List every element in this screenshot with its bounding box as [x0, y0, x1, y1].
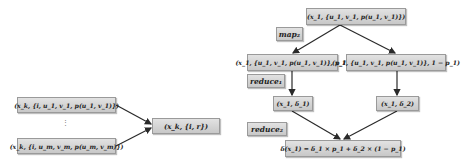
- delta2-node: (x_1, δ_2): [376, 96, 419, 111]
- branch-node-right: (x_1, {u_1, v_1, p(u_1, v_1)}, 1 − p_1): [346, 54, 446, 71]
- input-node-bottom: (x_k, {i, u_m, v_m, p(u_m, v_m)}): [17, 138, 116, 154]
- ellipsis-marker: ⋮: [62, 119, 69, 127]
- result-node: δ(x_1) = δ_1 × p_1 + δ_2 × (1 − p_1): [285, 140, 401, 157]
- arrow-delta1-to-result: [292, 111, 340, 139]
- output-node: (x_k, {i, r}): [152, 118, 220, 134]
- arrow-delta2-to-result: [344, 111, 397, 139]
- reduce1-stage-label: reduce₁: [247, 74, 285, 88]
- arrow-root-to-right: [340, 25, 395, 53]
- delta1-node: (x_1, δ_1): [273, 96, 313, 111]
- branch-node-left: (x_1, {u_1, v_1, p(u_1, v_1)}, p_1): [247, 54, 338, 71]
- arrow-top-to-output: [116, 105, 151, 124]
- map-stage-label: map₂: [276, 27, 303, 41]
- root-node: (x_1, {u_1, v_1, p(u_1, v_1)}): [306, 8, 406, 25]
- input-node-top: (x_k, {i, u_1, v_1, p(u_1, v_1)}): [17, 97, 116, 113]
- reduce2-stage-label: reduce₂: [247, 122, 287, 136]
